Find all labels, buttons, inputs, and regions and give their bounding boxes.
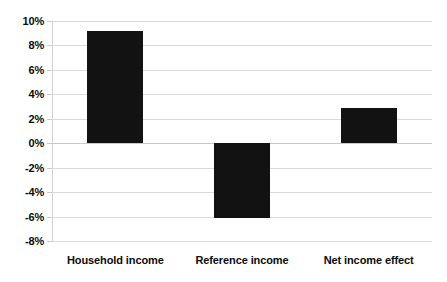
y-axis-label: 6% — [29, 64, 45, 76]
y-axis-label: -8% — [25, 235, 44, 247]
y-axis-label: 4% — [29, 88, 45, 100]
bar — [87, 31, 143, 143]
y-axis-label: 0% — [29, 137, 45, 149]
x-axis-category-label: Household income — [52, 254, 179, 266]
plot-area — [52, 21, 432, 241]
y-axis-label: -6% — [25, 211, 44, 223]
bar-chart: 10%8%6%4%2%0%-2%-4%-6%-8% Household inco… — [0, 0, 447, 282]
y-axis-label: 8% — [29, 39, 45, 51]
bar — [214, 143, 270, 218]
y-axis-label: -2% — [25, 162, 44, 174]
x-axis-category-label: Net income effect — [305, 254, 432, 266]
y-axis-label: 10% — [23, 15, 44, 27]
gridline-neg8 — [52, 241, 432, 242]
x-axis-category-label: Reference income — [179, 254, 306, 266]
gridline-10 — [52, 21, 432, 22]
bar — [341, 108, 397, 143]
y-axis-label: 2% — [29, 113, 45, 125]
y-axis-label: -4% — [25, 186, 44, 198]
